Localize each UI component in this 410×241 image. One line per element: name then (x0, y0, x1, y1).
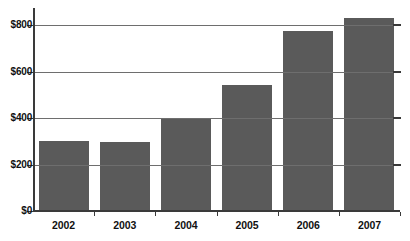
x-axis-tick-2002 (94, 212, 95, 216)
x-axis-label-2007: 2007 (339, 219, 400, 231)
bars-layer (33, 8, 400, 211)
y-axis-tick-right-600 (393, 71, 401, 73)
y-axis-label-0: $0 (0, 206, 32, 216)
x-axis-label-2003: 2003 (94, 219, 155, 231)
y-axis-tick-right-200 (393, 164, 401, 166)
y-axis-label-400: $400 (0, 113, 32, 123)
y-axis-label-800: $800 (0, 20, 32, 30)
x-axis-label-2004: 2004 (155, 219, 216, 231)
bar-2002 (39, 141, 89, 211)
y-axis-tick-right-800 (393, 24, 401, 26)
x-axis-tick-2003 (155, 212, 156, 216)
bar-2003 (100, 142, 150, 211)
bar-2007 (344, 18, 394, 211)
gridline-400 (33, 118, 400, 119)
bar-2006 (283, 31, 333, 211)
y-axis-label-600: $600 (0, 67, 32, 77)
y-axis-line (33, 8, 35, 212)
bar-2005 (222, 85, 272, 211)
x-axis-tick-2004 (217, 212, 218, 216)
bar-chart: $0$200$400$600$800 200220032004200520062… (0, 0, 410, 241)
x-axis-tick-2005 (278, 212, 279, 216)
gridline-200 (33, 165, 400, 166)
y-axis-tick-right-400 (393, 117, 401, 119)
x-axis-tick-2007 (400, 212, 401, 216)
x-axis-label-2006: 2006 (278, 219, 339, 231)
gridline-800 (33, 25, 400, 26)
gridline-600 (33, 72, 400, 73)
x-axis-label-2002: 2002 (33, 219, 94, 231)
x-axis-tick-2006 (339, 212, 340, 216)
x-axis-label-2005: 2005 (217, 219, 278, 231)
y-axis-label-200: $200 (0, 160, 32, 170)
